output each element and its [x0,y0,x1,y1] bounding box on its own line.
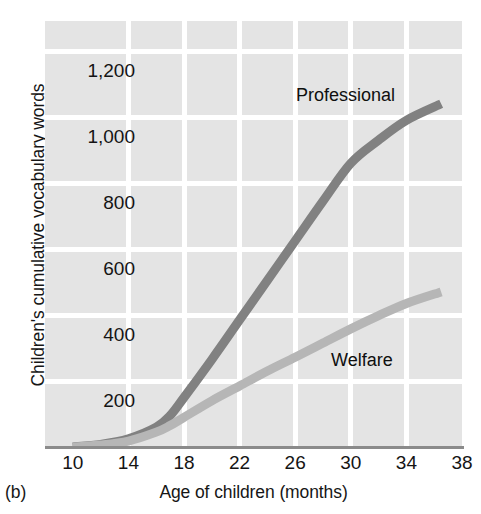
plot-area [45,18,462,447]
panel-caption: (b) [5,482,26,503]
x-axis-title: Age of children (months) [45,482,462,503]
x-tick-label: 10 [53,452,93,474]
x-tick-label: 14 [108,452,148,474]
series-label-professional: Professional [296,85,395,106]
x-tick-label: 18 [164,452,204,474]
x-tick-label: 22 [220,452,260,474]
x-axis-line [45,446,464,449]
x-tick-label: 30 [331,452,371,474]
y-tick-label: 400 [59,324,135,346]
x-tick-label: 38 [442,452,481,474]
series-label-welfare: Welfare [331,350,393,371]
y-tick-label: 1,200 [59,60,135,82]
y-tick-label: 1,000 [59,126,135,148]
figure-panel-b: Children's cumulative vocabulary words 2… [0,0,481,514]
x-tick-label: 34 [386,452,426,474]
y-tick-label: 800 [59,192,135,214]
series-curves [45,18,462,447]
x-tick-label: 26 [275,452,315,474]
y-tick-label: 600 [59,258,135,280]
y-tick-label: 200 [59,390,135,412]
